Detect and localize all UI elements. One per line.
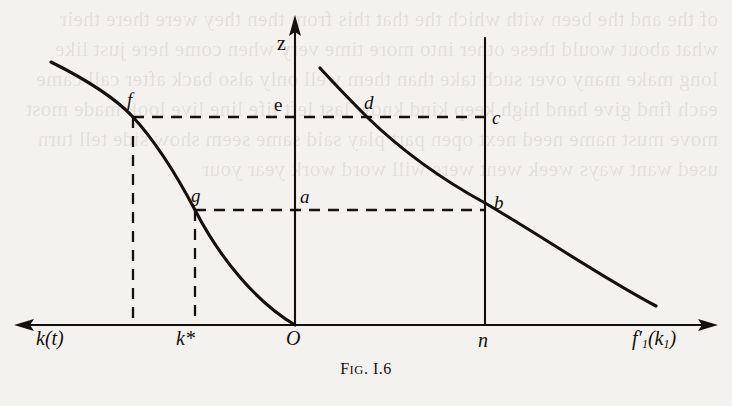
point-label-f: f [127, 90, 132, 109]
right-axis-label-close: ) [669, 327, 676, 349]
caption-smallcaps: IG [350, 363, 364, 377]
point-label-d: d [364, 93, 374, 112]
figure-drawing [0, 0, 732, 406]
point-label-a: a [300, 187, 310, 206]
tick-label-kstar: k* [176, 328, 195, 348]
right-axis-label-open: (k [648, 327, 664, 349]
left-axis-label: k(t) [36, 328, 64, 348]
point-label-e: e [274, 95, 282, 114]
figure-caption: FIG. I.6 [0, 360, 732, 378]
point-label-c: c [492, 108, 500, 127]
point-label-b: b [494, 193, 504, 212]
right-axis-label: f′1(k1) [632, 328, 676, 350]
z-axis [289, 15, 301, 325]
figure-page: of the and the been with which the that … [0, 0, 732, 406]
horizontal-axis [14, 319, 718, 331]
caption-suffix: . I.6 [364, 360, 392, 377]
tick-label-n: n [478, 330, 488, 350]
point-label-g: g [191, 186, 201, 205]
caption-prefix: F [340, 360, 349, 377]
left-curve [51, 62, 295, 325]
dashed-construction-lines [133, 117, 486, 324]
origin-label: O [286, 328, 300, 348]
z-axis-label: z [277, 33, 286, 53]
